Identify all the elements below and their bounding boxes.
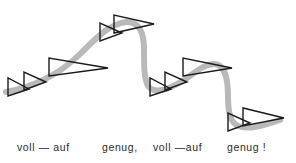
- caption-word-voll-auf-1: voll — auf: [17, 140, 70, 154]
- caption-word-voll-auf-2: voll —auf: [153, 140, 202, 154]
- intonation-figure: voll — auf genug, voll —auf genug !: [0, 0, 296, 163]
- contour-stroke: [6, 22, 280, 128]
- caption-word-genug-1: genug,: [102, 140, 138, 154]
- caption: voll — auf genug, voll —auf genug !: [0, 138, 296, 158]
- pitch-contour-path: [6, 22, 280, 128]
- caption-word-genug-2: genug !: [227, 140, 266, 154]
